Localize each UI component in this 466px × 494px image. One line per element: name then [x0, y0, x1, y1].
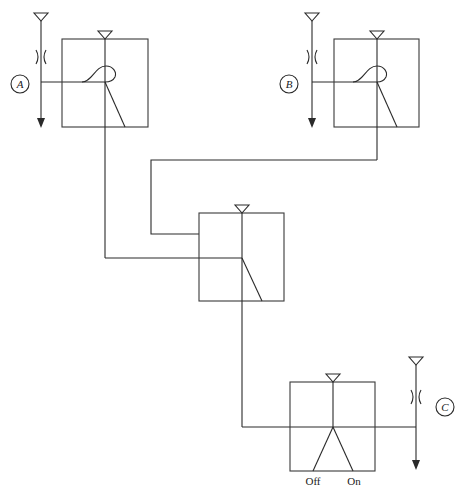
label-b: B [286, 78, 293, 90]
source-triangle-icon [305, 13, 319, 21]
switch-box-b [334, 31, 419, 160]
switch-box-output: Off On [290, 374, 375, 487]
input-a: A [11, 13, 105, 128]
switch-box-middle [199, 205, 284, 427]
arrow-down-icon [37, 118, 45, 128]
state-off-label: Off [305, 475, 320, 487]
loop-icon [82, 66, 116, 82]
source-triangle-icon [34, 13, 48, 21]
output-c: C [409, 357, 454, 470]
source-triangle-icon [326, 374, 340, 382]
restriction-icon [36, 50, 38, 64]
arrow-down-icon [412, 460, 420, 470]
source-triangle-icon [409, 357, 423, 365]
arrow-down-icon [308, 118, 316, 128]
source-triangle-icon [370, 31, 384, 39]
wire-b-to-middle [151, 160, 377, 234]
source-triangle-icon [235, 205, 249, 213]
label-a: A [16, 78, 24, 90]
switching-diagram: A B [0, 0, 466, 494]
loop-icon [353, 66, 387, 82]
source-triangle-icon [98, 31, 112, 39]
label-c: C [441, 401, 449, 413]
switch-box-a [62, 31, 148, 258]
restriction-icon [307, 50, 309, 64]
restriction-icon [411, 390, 413, 404]
input-b: B [280, 13, 377, 128]
state-on-label: On [347, 475, 361, 487]
